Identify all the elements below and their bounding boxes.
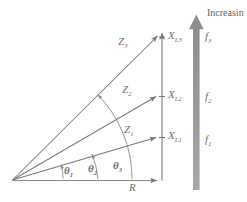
- increasing-frequency-caption: Increasin: [207, 8, 244, 18]
- angle-label-theta3: θ3: [113, 160, 122, 174]
- reactance-label-xl1-base: X: [168, 129, 175, 141]
- resistance-axis-label: R: [129, 182, 136, 193]
- reactance-label-xl3-sub: L3: [175, 36, 182, 43]
- figure-canvas: XL3 XL2 XL1 Z3 Z2 Z1 θ1 θ2 θ3 R f3 f2 f1…: [0, 0, 247, 202]
- reactance-label-xl1: XL1: [168, 130, 182, 144]
- impedance-label-z3-sub: 3: [124, 42, 127, 49]
- reactance-label-xl1-sub: L1: [175, 136, 182, 143]
- frequency-label-f3: f3: [205, 31, 211, 45]
- frequency-label-f2: f2: [205, 91, 211, 105]
- angle-label-theta1-sub: 1: [70, 171, 73, 178]
- increasing-frequency-arrow: [189, 15, 204, 191]
- reactance-label-xl3: XL3: [168, 30, 182, 44]
- angle-arc-theta1: [61, 164, 63, 178]
- impedance-label-z2-sub: 2: [128, 90, 131, 97]
- reactance-label-xl2-sub: L2: [175, 95, 182, 102]
- reactance-label-xl2-base: X: [168, 88, 175, 100]
- angle-label-theta2: θ2: [88, 163, 97, 177]
- angle-label-theta1: θ1: [64, 165, 73, 179]
- frequency-label-f1: f1: [205, 134, 211, 148]
- reactance-label-xl3-base: X: [168, 29, 175, 41]
- frequency-label-f3-sub: 3: [208, 37, 211, 44]
- reactance-label-xl2: XL2: [168, 89, 182, 103]
- impedance-label-z2: Z2: [122, 84, 132, 98]
- angle-label-theta2-sub: 2: [94, 169, 97, 176]
- frequency-label-f1-sub: 1: [208, 140, 211, 147]
- impedance-label-z3: Z3: [118, 36, 128, 50]
- impedance-label-z1: Z1: [124, 124, 134, 138]
- frequency-label-f2-sub: 2: [208, 97, 211, 104]
- angle-label-theta3-sub: 3: [119, 166, 122, 173]
- impedance-label-z1-sub: 1: [130, 130, 133, 137]
